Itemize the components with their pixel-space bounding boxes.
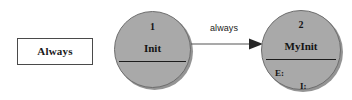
always-legend-box[interactable]: Always	[17, 38, 93, 65]
always-legend-label: Always	[37, 46, 72, 57]
state-node-myinit-name: MyInit	[262, 41, 340, 52]
state-node-init-name: Init	[115, 43, 190, 54]
state-node-init[interactable]: 1 Init	[114, 11, 191, 88]
transition-always[interactable]: always	[191, 24, 263, 52]
state-diagram-canvas: Always 1 Init always 2 MyInit E: I:	[0, 0, 352, 100]
state-node-myinit-slot-internal: I:	[300, 82, 307, 91]
state-node-myinit-id: 2	[262, 20, 340, 30]
transition-always-label: always	[191, 24, 257, 33]
state-node-init-divider	[119, 61, 186, 62]
state-node-init-id: 1	[115, 22, 190, 32]
transition-arrow-icon	[191, 36, 263, 52]
state-node-myinit[interactable]: 2 MyInit E: I:	[261, 10, 341, 90]
state-node-myinit-divider	[266, 59, 336, 60]
state-node-myinit-slot-entry: E:	[275, 69, 284, 78]
